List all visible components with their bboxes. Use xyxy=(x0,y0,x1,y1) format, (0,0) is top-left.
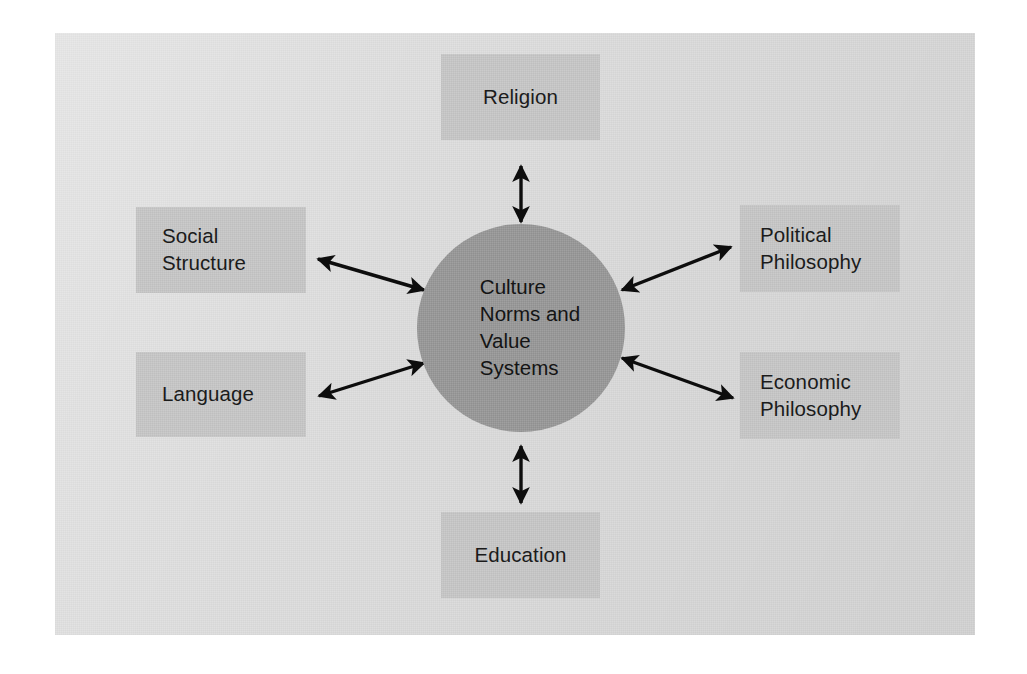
node-political-philosophy-label: Political Philosophy xyxy=(760,222,861,275)
connector-political-philosophy xyxy=(622,247,731,290)
node-social-structure: Social Structure xyxy=(136,207,306,293)
node-religion-label: Religion xyxy=(483,84,558,111)
node-language: Language xyxy=(136,352,306,437)
connector-language xyxy=(319,363,424,396)
node-economic-philosophy-label: Economic Philosophy xyxy=(760,369,861,422)
node-language-label: Language xyxy=(162,381,254,408)
connector-economic-philosophy xyxy=(622,358,733,398)
center-node-culture: Culture Norms and Value Systems xyxy=(417,224,625,432)
node-education: Education xyxy=(441,512,600,598)
node-economic-philosophy: Economic Philosophy xyxy=(740,352,900,439)
scanned-page: Culture Norms and Value Systems Religion… xyxy=(0,0,1027,674)
connector-social-structure xyxy=(318,259,424,290)
center-node-label: Culture Norms and Value Systems xyxy=(480,273,580,382)
node-political-philosophy: Political Philosophy xyxy=(740,205,900,292)
node-education-label: Education xyxy=(474,542,566,569)
node-social-structure-label: Social Structure xyxy=(162,223,246,276)
node-religion: Religion xyxy=(441,54,600,140)
